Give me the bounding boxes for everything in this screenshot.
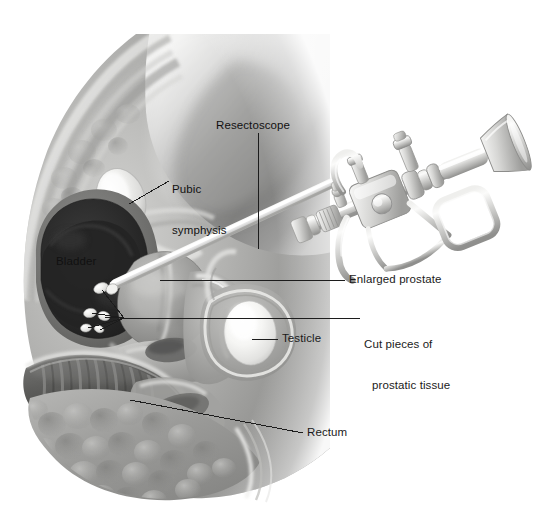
illustration-stage: Resectoscope Pubic symphysis Bladder Enl… <box>0 0 557 509</box>
label-rectum: Rectum <box>307 426 347 440</box>
label-cut-pieces: Cut pieces of prostatic tissue <box>364 311 450 419</box>
label-cut-pieces-line1: Cut pieces of <box>364 338 450 352</box>
label-pubic-symphysis-line1: Pubic <box>172 183 227 197</box>
label-pubic-symphysis-line2: symphysis <box>172 224 227 238</box>
label-resectoscope: Resectoscope <box>216 119 290 133</box>
label-pubic-symphysis: Pubic symphysis <box>172 156 227 264</box>
label-testicle: Testicle <box>282 332 321 346</box>
label-cut-pieces-line2: prostatic tissue <box>364 379 450 393</box>
figure-caption <box>0 492 557 509</box>
label-enlarged-prostate: Enlarged prostate <box>349 273 441 287</box>
label-bladder: Bladder <box>56 255 96 269</box>
